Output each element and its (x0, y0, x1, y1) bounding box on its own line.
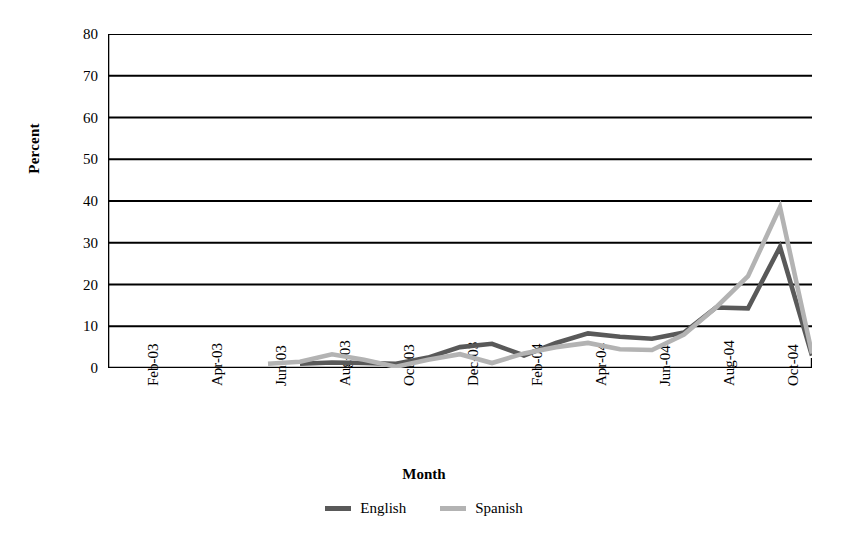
line-chart: Percent 80706050403020100 Feb-03Apr-03Ju… (0, 0, 848, 552)
y-tick-label: 70 (54, 68, 98, 83)
y-tick-label: 30 (54, 235, 98, 250)
legend-label-english: English (360, 500, 406, 517)
legend-swatch-spanish (440, 506, 466, 511)
legend-label-spanish: Spanish (475, 500, 523, 517)
plot-svg (108, 34, 812, 368)
y-tick-label: 0 (54, 361, 98, 376)
chart-legend: English Spanish (0, 500, 848, 517)
legend-swatch-english (325, 506, 351, 511)
y-axis-title: Percent (26, 89, 43, 209)
y-tick-label: 80 (54, 27, 98, 42)
series-line-spanish (268, 207, 812, 366)
y-tick-label: 60 (54, 110, 98, 125)
y-tick-label: 10 (54, 319, 98, 334)
x-axis-title: Month (0, 466, 848, 483)
legend-entry-english: English (325, 500, 406, 517)
y-tick-label: 50 (54, 152, 98, 167)
plot-area (108, 34, 812, 368)
y-tick-label: 40 (54, 194, 98, 209)
y-tick-label: 20 (54, 277, 98, 292)
legend-entry-spanish: Spanish (440, 500, 523, 517)
